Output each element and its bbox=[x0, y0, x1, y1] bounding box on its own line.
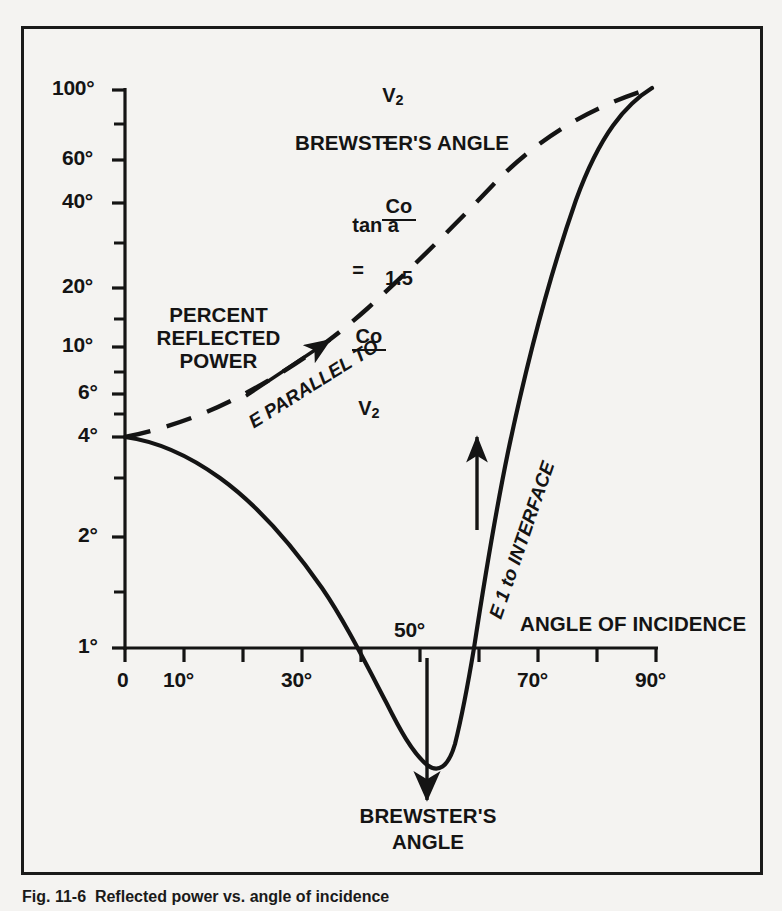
figure-root: 100° 60° 40° 20° 10° 6° 4° 2° 1° 0 10° 3… bbox=[0, 0, 782, 911]
y-axis-title-line-2: REFLECTED bbox=[156, 327, 281, 350]
y-tick-label-20: 20° bbox=[62, 274, 93, 298]
formula-tan-a-lhs: tan a bbox=[352, 214, 399, 236]
y-tick-label-6: 6° bbox=[78, 380, 97, 404]
figure-caption: Fig. 11-6 Reflected power vs. angle of i… bbox=[22, 888, 389, 906]
y-tick-label-40: 40° bbox=[62, 189, 93, 213]
brewster-angle-annotation-line-2: ANGLE bbox=[357, 831, 499, 854]
brewster-angle-annotation-line-1: BREWSTER'S bbox=[357, 805, 499, 828]
x-tick-label-10: 10° bbox=[163, 668, 194, 692]
formula-tan-a-denominator: V2 bbox=[352, 396, 385, 419]
y-tick-label-10: 10° bbox=[62, 333, 93, 357]
x-tick-label-90: 90° bbox=[635, 668, 666, 692]
y-tick-label-4: 4° bbox=[78, 423, 97, 447]
formula-v2-lhs: V bbox=[382, 84, 395, 106]
x-axis-title: ANGLE OF INCIDENCE bbox=[520, 613, 746, 636]
y-tick-label-1: 1° bbox=[78, 634, 97, 658]
y-axis-title-line-1: PERCENT bbox=[156, 304, 281, 327]
y-axis-title-line-3: POWER bbox=[156, 350, 281, 373]
y-tick-label-60: 60° bbox=[62, 146, 93, 170]
x-tick-label-30: 30° bbox=[281, 668, 312, 692]
y-tick-label-100: 100° bbox=[52, 76, 94, 100]
x-tick-label-50: 50° bbox=[394, 618, 425, 642]
formula-tan-a-equals: = bbox=[352, 259, 364, 281]
y-tick-label-2: 2° bbox=[78, 523, 97, 547]
chart-title: BREWSTER'S ANGLE bbox=[295, 132, 509, 155]
formula-v2-lhs-sub: 2 bbox=[396, 92, 404, 108]
x-tick-label-0: 0 bbox=[117, 668, 128, 692]
x-tick-label-70: 70° bbox=[517, 668, 548, 692]
formula-tan-a-fraction: Co V2 bbox=[352, 281, 385, 464]
